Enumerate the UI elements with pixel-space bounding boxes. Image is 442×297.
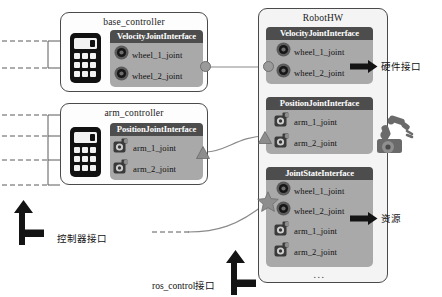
velocity-connector-dot-right[interactable]	[263, 61, 274, 72]
velocity-connector-dot-left[interactable]	[200, 61, 211, 72]
ros-control-interface-arrow	[226, 249, 262, 297]
hardware-interface-arrow	[350, 59, 378, 77]
joint-row[interactable]: arm_2_joint	[113, 159, 176, 179]
joint-row[interactable]: wheel_2_joint	[114, 66, 182, 85]
arm-joint-icon	[113, 159, 130, 179]
arm-joint-icon	[274, 221, 291, 241]
joint-row[interactable]: wheel_2_joint	[276, 63, 344, 82]
joint-state-more-indicator: ...	[266, 269, 373, 280]
joint-row[interactable]: wheel_1_joint	[276, 42, 344, 61]
resource-arrow	[350, 211, 378, 229]
hw-position-joint-interface[interactable]: PositionJointInterface arm_1_joint	[266, 97, 373, 154]
interface-title: VelocityJointInterface	[266, 27, 373, 40]
joint-label: arm_1_joint	[294, 226, 337, 236]
jointstate-connector-star[interactable]	[257, 191, 279, 217]
joint-label: arm_2_joint	[133, 164, 176, 174]
arm-joint-icon	[113, 138, 130, 158]
arm-controller-panel[interactable]: arm_controller PositionJointInterface	[60, 103, 208, 185]
arm-joint-icon	[274, 112, 291, 132]
wheel-joint-icon	[114, 45, 129, 64]
wheel-joint-icon	[114, 66, 129, 85]
joint-row[interactable]: arm_1_joint	[274, 221, 337, 241]
controller-interface-label: 控制器接口	[57, 231, 107, 245]
joint-row[interactable]: wheel_2_joint	[276, 201, 344, 220]
interface-title: PositionJointInterface	[266, 97, 373, 110]
position-connector-triangle-right[interactable]	[258, 130, 272, 148]
base-controller-title: base_controller	[61, 17, 207, 27]
interface-title: JointStateInterface	[266, 167, 373, 180]
joint-label: arm_1_joint	[294, 117, 337, 127]
joint-row[interactable]: arm_1_joint	[113, 138, 176, 158]
joint-label: wheel_1_joint	[294, 47, 344, 57]
joint-label: wheel_2_joint	[294, 68, 344, 78]
resource-label: 资源	[381, 211, 401, 225]
joint-row[interactable]: arm_2_joint	[274, 133, 337, 153]
calculator-icon	[69, 32, 102, 88]
joint-row[interactable]: arm_1_joint	[274, 112, 337, 132]
joint-label: wheel_2_joint	[294, 206, 344, 216]
arm-controller-title: arm_controller	[61, 108, 207, 118]
arm-joint-icon	[274, 242, 291, 262]
base-controller-panel[interactable]: base_controller VelocityJointInterface	[60, 12, 208, 92]
robot-hw-panel[interactable]: RobotHW VelocityJointInterface wheel_1_j…	[258, 8, 388, 283]
joint-label: arm_1_joint	[133, 143, 176, 153]
robot-arm-icon	[375, 114, 415, 160]
controller-interface-arrow	[14, 199, 50, 250]
joint-label: wheel_2_joint	[132, 71, 182, 81]
base-velocity-joint-interface[interactable]: VelocityJointInterface wheel_1_joint	[110, 30, 203, 87]
joint-label: wheel_1_joint	[132, 50, 182, 60]
hardware-interface-label: 硬件接口	[381, 59, 421, 73]
joint-row[interactable]: wheel_1_joint	[114, 45, 182, 64]
arm-joint-icon	[274, 133, 291, 153]
interface-title: VelocityJointInterface	[110, 30, 203, 43]
joint-row[interactable]: arm_2_joint	[274, 242, 337, 262]
interface-title: PositionJointInterface	[110, 123, 203, 136]
joint-row[interactable]: wheel_1_joint	[276, 181, 344, 200]
wheel-joint-icon	[276, 63, 291, 82]
joint-label: arm_2_joint	[294, 247, 337, 257]
joint-label: wheel_1_joint	[294, 186, 344, 196]
joint-label: arm_2_joint	[294, 138, 337, 148]
robot-hw-title: RobotHW	[259, 13, 387, 23]
wheel-joint-icon	[276, 42, 291, 61]
diagram-canvas: base_controller VelocityJointInterface	[0, 0, 442, 297]
ros-control-interface-label: ros_control接口	[152, 278, 215, 292]
position-connector-triangle-left[interactable]	[196, 145, 210, 163]
calculator-icon	[69, 126, 102, 182]
arm-position-joint-interface[interactable]: PositionJointInterface arm_1_joint	[110, 123, 203, 180]
